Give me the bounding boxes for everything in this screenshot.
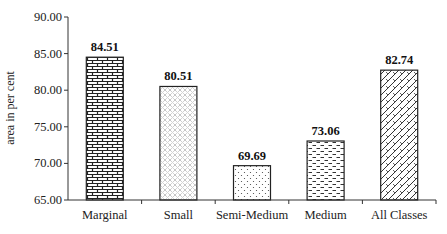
bar-medium (307, 141, 344, 200)
y-tick-label: 85.00 (34, 47, 62, 61)
value-label: 73.06 (312, 124, 340, 138)
y-tick-label: 70.00 (34, 156, 62, 170)
y-tick-label: 75.00 (34, 120, 62, 134)
value-label: 82.74 (385, 53, 414, 67)
x-category-label: Semi-Medium (216, 208, 288, 222)
y-tick-label: 65.00 (34, 193, 62, 207)
value-label: 84.51 (91, 40, 119, 54)
bars: 84.5180.5169.6973.0682.74 (86, 40, 417, 200)
x-axis: MarginalSmallSemi-MediumMediumAll Classe… (68, 200, 436, 222)
bar-semi-medium (234, 166, 271, 200)
bar-all-classes (381, 70, 418, 200)
x-category-label: Marginal (82, 208, 128, 222)
value-label: 69.69 (238, 149, 266, 163)
bar-marginal (86, 57, 123, 200)
value-label: 80.51 (164, 69, 192, 83)
x-category-label: Medium (304, 208, 347, 222)
y-tick-label: 90.00 (34, 10, 62, 24)
x-category-label: All Classes (371, 208, 428, 222)
y-axis-title: area in per cent (3, 71, 17, 145)
y-tick-label: 80.00 (34, 83, 62, 97)
bar-small (160, 86, 197, 200)
y-axis: 65.0070.0075.0080.0085.0090.00 (34, 10, 68, 207)
x-category-label: Small (164, 208, 194, 222)
bar-chart: 65.0070.0075.0080.0085.0090.00 84.5180.5… (0, 0, 447, 234)
